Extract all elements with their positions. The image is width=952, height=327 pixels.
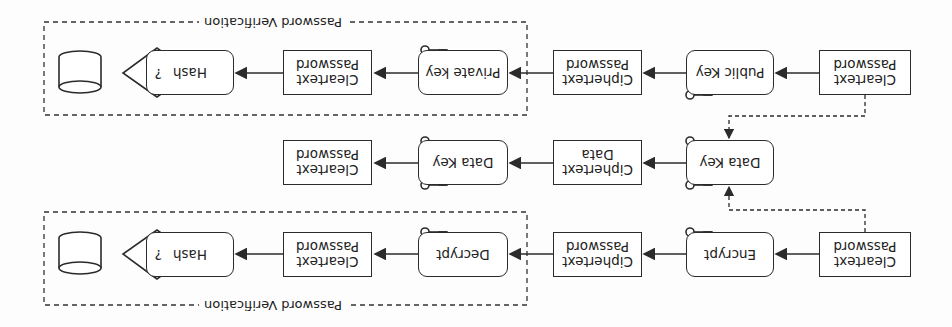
compare-label-bottom: ? xyxy=(155,247,162,263)
node-data-key-b3: Data Key xyxy=(418,140,508,185)
node-cleartext-password-b4: Cleartext Password xyxy=(283,140,372,185)
verification-group-label-bottom: Password Verification xyxy=(199,298,347,313)
dashed-connector-top xyxy=(729,95,865,138)
database-cylinder-bottom xyxy=(59,232,101,274)
dashed-connector-bottom xyxy=(729,187,865,232)
node-public-key: Public Key xyxy=(686,50,774,95)
node-private-key: Private key xyxy=(418,50,508,95)
node-encrypt: Encrypt xyxy=(686,232,774,277)
node-ciphertext-data: Ciphertext Data xyxy=(553,140,642,185)
node-cleartext-password-a1: Cleartext Password xyxy=(819,50,911,95)
node-data-key-b1: Data Key xyxy=(686,140,774,185)
node-ciphertext-password-c3: Ciphertext Password xyxy=(553,232,642,277)
compare-label-top: ? xyxy=(155,66,162,82)
node-cleartext-password-c5: Cleartext Password xyxy=(283,232,372,277)
node-decrypt: Decrypt xyxy=(418,232,508,277)
diagram-canvas: Cleartext Password Public Key Ciphertext… xyxy=(0,0,952,327)
database-cylinder-top xyxy=(59,51,101,93)
node-cleartext-password-c1: Cleartext Password xyxy=(819,232,911,277)
node-ciphertext-password-a3: Ciphertext Password xyxy=(553,50,642,95)
node-cleartext-password-a5: Cleartext Password xyxy=(283,50,372,95)
verification-group-label-top: Password Verification xyxy=(199,15,347,30)
